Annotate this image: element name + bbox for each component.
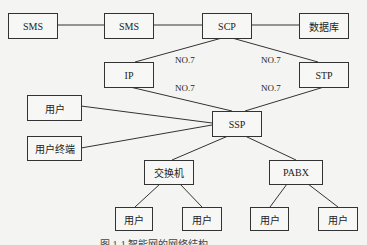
node-database: 数据库 (299, 13, 349, 39)
node-sms-2: SMS (104, 13, 154, 39)
figure-caption: 图 1-1 智能网的网络结构 (100, 239, 300, 245)
node-switch: 交换机 (144, 160, 194, 185)
node-scp: SCP (202, 13, 252, 39)
node-stp: STP (299, 62, 349, 88)
node-user-4: 用户 (318, 207, 358, 231)
node-user-2: 用户 (182, 207, 222, 231)
node-ssp: SSP (212, 111, 262, 137)
node-user-3: 用户 (250, 207, 289, 231)
link-label-scp-ip: NO.7 (175, 55, 195, 65)
node-pabx: PABX (269, 160, 323, 185)
node-user-1: 用户 (115, 207, 153, 231)
node-sms-1: SMS (8, 13, 58, 39)
link-label-stp-ssp: NO.7 (261, 83, 281, 93)
node-user-terminal: 用户终端 (27, 136, 82, 161)
node-ip: IP (104, 62, 154, 88)
link-label-scp-stp: NO.7 (261, 55, 281, 65)
link-label-ip-ssp: NO.7 (175, 83, 195, 93)
node-user-left: 用户 (27, 95, 82, 121)
